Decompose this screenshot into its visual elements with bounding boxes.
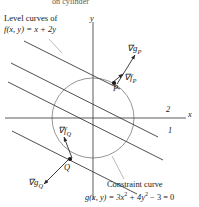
- grad-g-q-subscript: Q: [38, 182, 43, 189]
- point-q-marker: [68, 157, 72, 161]
- level-curves-caption: Level curves of f(x, y) = x + 2y: [4, 14, 57, 34]
- grad-g-p-subscript: P: [137, 48, 141, 55]
- constraint-leader-line: [112, 156, 124, 179]
- x-axis-label: x: [188, 110, 192, 119]
- constraint-equation: g(x, y) = 3x2 + 4y2 − 3 = 0: [85, 191, 174, 202]
- grad-f-p-arrow: [113, 74, 123, 82]
- grad-f-p-subscript: P: [132, 77, 136, 84]
- level-curve-line-1: [24, 41, 120, 89]
- constraint-eq-tail: − 3 = 0: [148, 193, 174, 202]
- y-axis-label: y: [90, 14, 94, 23]
- page-running-text: on cylinder: [52, 0, 89, 6]
- constraint-eq-lead: g(x, y) = 3x: [85, 193, 124, 202]
- grad-g-q-symbol: ∇g: [28, 177, 38, 187]
- constraint-eq-mid: + 4y: [127, 193, 145, 202]
- constraint-curve-caption: Constraint curve g(x, y) = 3x2 + 4y2 − 3…: [107, 180, 163, 189]
- lagrange-multiplier-diagram: on cylinder Level curves of f(x, y) = x …: [0, 0, 199, 207]
- grad-f-q-subscript: Q: [66, 130, 71, 137]
- grad-g-p-label: ∇gP: [127, 44, 141, 55]
- level-value-label-2: 2: [166, 105, 170, 114]
- constraint-caption-text: Constraint curve: [107, 180, 163, 189]
- level-value-label-1: 1: [168, 126, 172, 135]
- point-p-label: P: [113, 84, 118, 93]
- grad-f-q-label: ∇fQ: [58, 126, 71, 137]
- level-curves-caption-text: Level curves of: [4, 13, 57, 23]
- level-curves-leader-line: [49, 39, 62, 53]
- grad-f-p-label: ∇fP: [124, 73, 136, 84]
- level-curve-line-3: [8, 82, 163, 160]
- level-curves-equation: f(x, y) = x + 2y: [4, 25, 57, 35]
- grad-g-q-label: ∇gQ: [28, 178, 43, 189]
- grad-g-p-symbol: ∇g: [127, 43, 137, 53]
- point-q-label: Q: [64, 163, 70, 172]
